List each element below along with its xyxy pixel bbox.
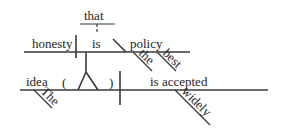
clause-verb: is — [92, 36, 101, 51]
main-verb: is accepted — [150, 74, 208, 89]
pedestal-left-leg — [78, 72, 86, 90]
connector-word: that — [84, 8, 104, 23]
appositive-close-paren: ) — [109, 75, 113, 90]
modifier-best: best — [160, 46, 186, 72]
predicate-slant-line — [113, 39, 126, 52]
sentence-diagram: that honesty is policy the best idea ( )… — [0, 0, 283, 130]
pedestal-right-leg — [86, 72, 98, 90]
clause-subject: honesty — [32, 36, 73, 51]
appositive-open-paren: ( — [62, 75, 66, 90]
